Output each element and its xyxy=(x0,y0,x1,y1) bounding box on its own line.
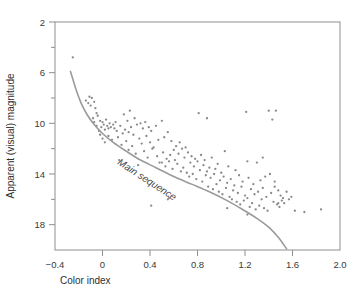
data-point xyxy=(206,117,208,119)
data-point xyxy=(158,161,160,163)
data-point xyxy=(101,121,103,123)
data-point xyxy=(124,129,126,131)
data-point xyxy=(226,207,228,209)
data-point xyxy=(245,111,247,113)
data-point xyxy=(215,183,217,185)
data-point xyxy=(179,141,181,143)
data-point xyxy=(120,144,122,146)
data-point xyxy=(213,173,215,175)
y-tick-label: 2 xyxy=(40,17,45,28)
y-axis: 26101418 xyxy=(34,17,55,231)
data-point xyxy=(195,178,197,180)
data-point xyxy=(203,159,205,161)
data-point xyxy=(116,130,118,132)
data-point xyxy=(114,121,116,123)
data-point xyxy=(144,121,146,123)
data-point xyxy=(290,196,292,198)
data-point xyxy=(110,126,112,128)
x-axis: −0.400.40.81.21.62.0 xyxy=(46,250,347,270)
data-point xyxy=(85,99,87,101)
data-point xyxy=(181,148,183,150)
data-point xyxy=(176,163,178,165)
data-point xyxy=(163,136,165,138)
data-point xyxy=(174,159,176,161)
data-point xyxy=(288,198,290,200)
data-point xyxy=(265,196,267,198)
data-point xyxy=(275,110,277,112)
data-point xyxy=(246,197,248,199)
data-point xyxy=(211,156,213,158)
data-point xyxy=(136,123,138,125)
x-tick-label: 2.0 xyxy=(333,259,346,270)
data-point xyxy=(107,135,109,137)
data-point xyxy=(72,56,74,58)
data-point xyxy=(189,161,191,163)
data-point xyxy=(238,174,240,176)
data-point xyxy=(259,179,261,181)
data-point xyxy=(196,160,198,162)
data-point xyxy=(237,192,239,194)
data-point xyxy=(228,196,230,198)
data-point xyxy=(162,151,164,153)
data-point xyxy=(126,120,128,122)
data-point xyxy=(278,206,280,208)
data-point xyxy=(268,110,270,112)
data-point xyxy=(122,132,124,134)
data-point xyxy=(226,182,228,184)
data-point xyxy=(132,134,134,136)
main-sequence-curve xyxy=(70,71,286,248)
y-axis-title: Apparent (visual) magnitude xyxy=(5,73,16,199)
x-tick-label: 0 xyxy=(100,259,105,270)
data-point xyxy=(212,188,214,190)
data-point xyxy=(192,173,194,175)
data-point xyxy=(224,150,226,152)
data-point xyxy=(180,170,182,172)
data-point xyxy=(150,205,152,207)
data-point xyxy=(250,188,252,190)
data-point xyxy=(220,172,222,174)
data-point xyxy=(183,156,185,158)
data-point xyxy=(281,199,283,201)
data-point xyxy=(92,117,94,119)
data-point xyxy=(187,151,189,153)
data-point xyxy=(219,179,221,181)
data-point xyxy=(94,107,96,109)
data-point xyxy=(262,187,264,189)
y-tick-label: 6 xyxy=(40,67,45,78)
data-point xyxy=(251,202,253,204)
data-point xyxy=(142,127,144,129)
data-point xyxy=(104,141,106,143)
data-point xyxy=(145,135,147,137)
data-point xyxy=(182,167,184,169)
data-point xyxy=(208,167,210,169)
data-point xyxy=(282,197,284,199)
data-point xyxy=(209,177,211,179)
data-point xyxy=(106,125,108,127)
data-point xyxy=(256,161,258,163)
data-point xyxy=(201,180,203,182)
data-point xyxy=(294,210,296,212)
data-point xyxy=(99,134,101,136)
data-point xyxy=(241,180,243,182)
data-point xyxy=(165,158,167,160)
data-point xyxy=(117,136,119,138)
data-point xyxy=(199,169,201,171)
data-point xyxy=(277,202,279,204)
data-point xyxy=(105,118,107,120)
data-point xyxy=(222,175,224,177)
data-point xyxy=(161,120,163,122)
data-point xyxy=(87,102,89,104)
data-point xyxy=(236,201,238,203)
data-point xyxy=(247,177,249,179)
data-point xyxy=(119,125,121,127)
data-point xyxy=(139,122,141,124)
data-point xyxy=(184,146,186,148)
scatter-points xyxy=(72,56,322,215)
data-point xyxy=(303,211,305,213)
data-point xyxy=(157,139,159,141)
data-point xyxy=(156,155,158,157)
data-point xyxy=(173,149,175,151)
x-tick-label: 0.8 xyxy=(191,259,204,270)
data-point xyxy=(190,155,192,157)
data-point xyxy=(143,150,145,152)
